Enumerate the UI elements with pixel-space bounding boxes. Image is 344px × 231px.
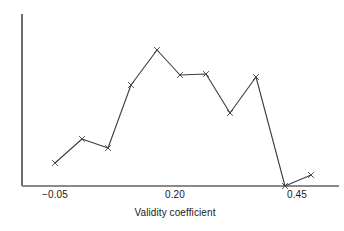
data-marker-group [52, 47, 313, 188]
axis-lines [22, 14, 339, 186]
x-tick-label-2: 0.45 [287, 189, 307, 200]
data-point-marker [227, 110, 232, 115]
data-point-marker [308, 172, 313, 177]
data-line [55, 50, 311, 186]
data-point-marker [128, 82, 133, 87]
x-axis-title: Validity coefficient [134, 207, 215, 218]
data-series-group [52, 47, 313, 188]
data-point-marker [52, 160, 57, 165]
data-point-marker [154, 47, 159, 52]
chart-figure: −0.05 0.20 0.45 Validity coefficient [0, 0, 344, 231]
x-tick-label-1: 0.20 [165, 189, 185, 200]
x-tick-label-0: −0.05 [42, 189, 68, 200]
data-point-marker [79, 136, 84, 141]
data-point-marker [105, 145, 110, 150]
